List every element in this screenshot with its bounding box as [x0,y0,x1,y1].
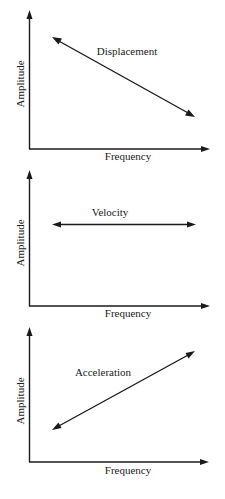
y-axis-label: Amplitude [14,377,26,424]
x-axis-arrowhead-icon [200,459,209,465]
y-axis-arrowhead-icon [27,170,33,179]
figure-canvas: Displacement Frequency Amplitude Velocit… [0,0,225,499]
acceleration-trend-line [57,354,190,427]
trend-arrowhead-start-icon [52,222,61,228]
trend-arrowhead-start-icon [52,37,62,45]
panel-velocity: Velocity Frequency Amplitude [14,170,210,319]
y-axis-arrowhead-icon [27,327,33,336]
curve-label: Velocity [92,206,129,218]
x-axis-label: Frequency [105,150,152,162]
y-axis-label: Amplitude [14,60,26,107]
y-axis-label: Amplitude [14,219,26,266]
vibration-amplitude-vs-frequency-figure: Displacement Frequency Amplitude Velocit… [0,0,225,499]
trend-arrowhead-end-icon [187,222,196,228]
y-axis-arrowhead-icon [27,10,33,19]
x-axis-arrowhead-icon [201,303,210,309]
x-axis-label: Frequency [105,307,152,319]
curve-label: Acceleration [75,366,132,378]
trend-arrowhead-end-icon [185,110,195,118]
panel-acceleration: Acceleration Frequency Amplitude [14,327,209,476]
trend-arrowhead-end-icon [186,351,196,359]
x-axis-label: Frequency [105,464,152,476]
trend-arrowhead-start-icon [52,423,62,431]
curve-label: Displacement [97,45,157,57]
x-axis-arrowhead-icon [201,146,210,152]
panel-displacement: Displacement Frequency Amplitude [14,10,210,162]
